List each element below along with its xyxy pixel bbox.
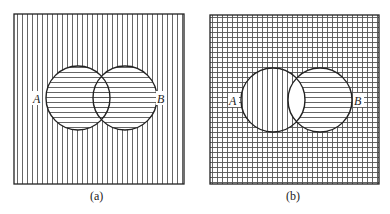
- caption-a: (a): [90, 189, 103, 203]
- label-b: B: [157, 92, 165, 106]
- caption-b: (b): [286, 189, 300, 203]
- panel-b: A B (b): [210, 15, 379, 203]
- label-a: A: [228, 94, 237, 108]
- label-a: A: [32, 92, 41, 106]
- panel-a: A B (a): [14, 14, 184, 203]
- venn-diagrams: A B (a) A B (b): [0, 0, 390, 214]
- label-b: B: [354, 94, 362, 108]
